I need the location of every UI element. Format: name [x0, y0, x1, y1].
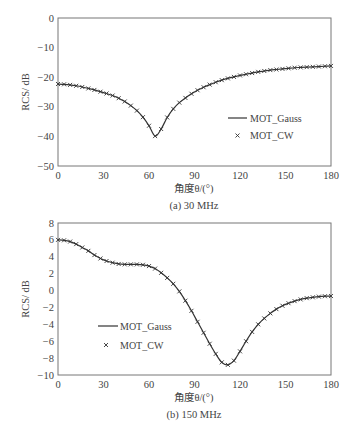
legend: MOT_Gauss MOT_CW — [228, 113, 302, 142]
x-tick-label: 0 — [55, 379, 60, 390]
legend-x-marker-icon — [104, 343, 108, 347]
x-tick-label: 150 — [278, 170, 294, 181]
legend-label-gauss: MOT_Gauss — [250, 113, 302, 124]
x-tick-label: 180 — [323, 379, 339, 390]
y-tick-label: −8 — [43, 353, 54, 364]
x-tick-label: 120 — [232, 379, 248, 390]
y-tick-label: −50 — [38, 161, 54, 172]
y-tick-labels: 86420−2−4−6−8−10 — [38, 218, 55, 381]
x-tick-label: 30 — [98, 379, 109, 390]
series-markers-mot-cw — [56, 64, 333, 138]
y-tick-labels: 0−10−20−30−40−50 — [38, 13, 54, 172]
y-tick-label: −30 — [38, 101, 54, 112]
series-line-mot-gauss — [58, 66, 331, 136]
series-line-mot-gauss — [58, 240, 331, 365]
legend-label-cw: MOT_CW — [120, 340, 164, 351]
x-axis-label: 角度θ/(°) — [174, 391, 214, 404]
legend-label-cw: MOT_CW — [250, 130, 294, 141]
legend-x-marker-icon — [236, 134, 240, 138]
plot-frame — [58, 223, 331, 375]
x-tick-label: 30 — [98, 170, 109, 181]
x-tick-label: 90 — [189, 170, 200, 181]
x-tick-label: 180 — [323, 170, 339, 181]
y-tick-label: 0 — [49, 13, 54, 24]
x-tick-label: 60 — [144, 379, 155, 390]
figure: 0−10−20−30−40−50 0306090120150180 RCS/ d… — [0, 0, 359, 439]
x-tick-labels: 0306090120150180 — [55, 170, 339, 181]
y-tick-label: 0 — [49, 285, 54, 296]
y-tick-label: 6 — [49, 234, 54, 245]
x-tick-labels: 0306090120150180 — [55, 379, 339, 390]
x-tick-label: 90 — [189, 379, 200, 390]
chart-30mhz: 0−10−20−30−40−50 0306090120150180 RCS/ d… — [20, 13, 339, 213]
y-tick-label: −10 — [38, 370, 54, 381]
y-tick-label: −6 — [43, 336, 54, 347]
caption: (b) 150 MHz — [167, 409, 222, 421]
y-tick-label: −2 — [43, 302, 54, 313]
x-tick-label: 0 — [55, 170, 60, 181]
x-tick-label: 150 — [278, 379, 294, 390]
legend-label-gauss: MOT_Gauss — [120, 321, 172, 332]
y-tick-label: −10 — [38, 42, 54, 53]
chart-150mhz: 86420−2−4−6−8−10 0306090120150180 RCS/ d… — [20, 218, 339, 422]
x-axis-label: 角度θ/(°) — [174, 182, 214, 195]
y-axis-label: RCS/ dB — [20, 280, 31, 318]
x-tick-label: 60 — [144, 170, 155, 181]
y-axis-label: RCS/ dB — [20, 73, 31, 111]
y-tick-label: 8 — [49, 218, 54, 229]
x-tick-label: 120 — [232, 170, 248, 181]
caption: (a) 30 MHz — [170, 200, 219, 212]
y-tick-label: −4 — [43, 319, 55, 330]
y-tick-label: 2 — [49, 268, 54, 279]
y-tick-label: −40 — [38, 131, 54, 142]
y-tick-label: 4 — [49, 251, 55, 262]
legend: MOT_Gauss MOT_CW — [98, 321, 172, 351]
y-tick-label: −20 — [38, 72, 54, 83]
